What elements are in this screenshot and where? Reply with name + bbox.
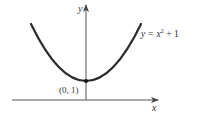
curve-label: y = x2 + 1 <box>140 27 179 39</box>
curve-label-suffix: + 1 <box>164 29 179 39</box>
chart-svg: y x y = x2 + 1 (0, 1) <box>0 0 198 116</box>
vertex-point <box>84 79 88 83</box>
vertex-label: (0, 1) <box>59 85 79 95</box>
x-axis-label: x <box>151 102 157 113</box>
curve-label-prefix: y = x <box>140 29 161 39</box>
parabola-figure: y x y = x2 + 1 (0, 1) <box>0 0 198 116</box>
y-axis-label: y <box>77 3 83 14</box>
